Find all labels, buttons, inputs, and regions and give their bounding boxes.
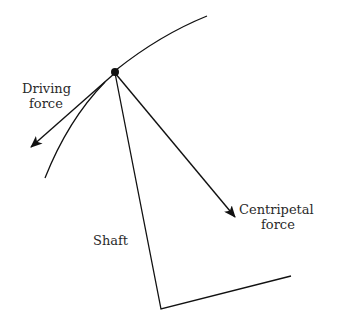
driving-force-label-line2: force xyxy=(29,96,63,111)
centripetal-force-label-line2: force xyxy=(261,217,295,232)
circular-path-upper-arc xyxy=(116,16,207,70)
shaft-label: Shaft xyxy=(93,233,129,248)
centripetal-force-arrow xyxy=(115,73,235,217)
driving-force-label-line1: Driving xyxy=(22,81,71,96)
shaft-line xyxy=(115,73,291,309)
centripetal-force-label-line1: Centripetal xyxy=(239,202,314,217)
centripetal-force-diagram: Driving force Centripetal force Shaft xyxy=(0,0,345,331)
mass-point xyxy=(111,68,119,76)
